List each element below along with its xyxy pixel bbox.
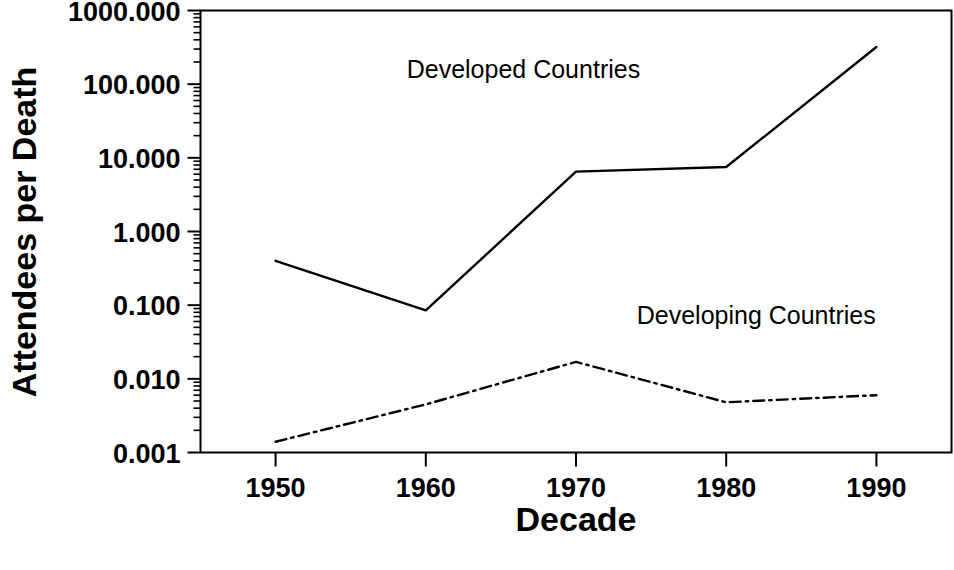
y-axis-title: Attendees per Death [5, 67, 43, 398]
y-tick-label: 0.100 [113, 291, 181, 321]
x-tick-label: 1970 [546, 473, 606, 503]
y-tick-label: 100.000 [83, 70, 181, 100]
x-tick-label: 1960 [396, 473, 456, 503]
y-tick-label: 1.000 [113, 218, 181, 248]
x-axis-title: Decade [516, 500, 637, 538]
x-tick-label: 1950 [246, 473, 306, 503]
series-annotation-0: Developed Countries [407, 55, 640, 83]
series-annotation-1: Developing Countries [637, 301, 876, 329]
y-tick-label: 10.000 [98, 144, 181, 174]
y-axis-ticks [188, 11, 201, 453]
series-line-0 [276, 47, 877, 310]
y-tick-label: 1000.000 [68, 0, 181, 27]
x-axis-tick-labels: 19501960197019801990 [246, 473, 907, 503]
x-tick-label: 1980 [696, 473, 756, 503]
data-series-group [276, 47, 877, 442]
series-annotations: Developed CountriesDeveloping Countries [407, 55, 876, 329]
chart-figure: 0.0010.0100.1001.00010.000100.0001000.00… [0, 0, 954, 570]
x-tick-label: 1990 [846, 473, 906, 503]
y-tick-label: 0.010 [113, 365, 181, 395]
series-line-1 [276, 362, 877, 442]
y-tick-label: 0.001 [113, 439, 181, 469]
y-axis-tick-labels: 0.0010.0100.1001.00010.000100.0001000.00… [68, 0, 181, 469]
line-chart: 0.0010.0100.1001.00010.000100.0001000.00… [0, 0, 954, 570]
x-axis-ticks [276, 453, 877, 467]
